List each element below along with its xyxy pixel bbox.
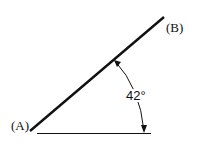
angle-label: 42° xyxy=(125,89,147,102)
arrowhead-bottom xyxy=(141,125,147,133)
point-b-label: (B) xyxy=(166,21,183,34)
point-a-label: (A) xyxy=(11,119,29,132)
inclined-line-ab xyxy=(30,17,164,131)
arrowhead-top xyxy=(114,60,121,67)
